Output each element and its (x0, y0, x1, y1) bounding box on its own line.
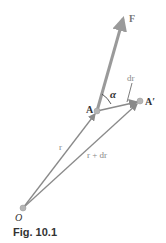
label-a: A (86, 105, 93, 115)
label-dr: dr (127, 74, 135, 83)
label-a-prime: A′ (145, 97, 155, 107)
point-a-prime (137, 98, 143, 104)
point-o (20, 205, 26, 211)
label-r: r (59, 143, 62, 152)
dr-leader-line (127, 83, 132, 102)
label-force: F (129, 14, 135, 24)
label-alpha: α (110, 89, 116, 100)
figure-caption: Fig. 10.1 (13, 226, 57, 238)
position-vector-r-plus-dr (23, 104, 137, 208)
label-r-plus-dr: r + dr (87, 151, 107, 160)
vector-diagram (0, 0, 166, 243)
position-vector-r (23, 114, 95, 208)
label-origin: O (15, 213, 22, 223)
figure-10-1: F dr α A A′ r r + dr O Fig. 10.1 (0, 0, 166, 243)
point-a (94, 108, 100, 114)
